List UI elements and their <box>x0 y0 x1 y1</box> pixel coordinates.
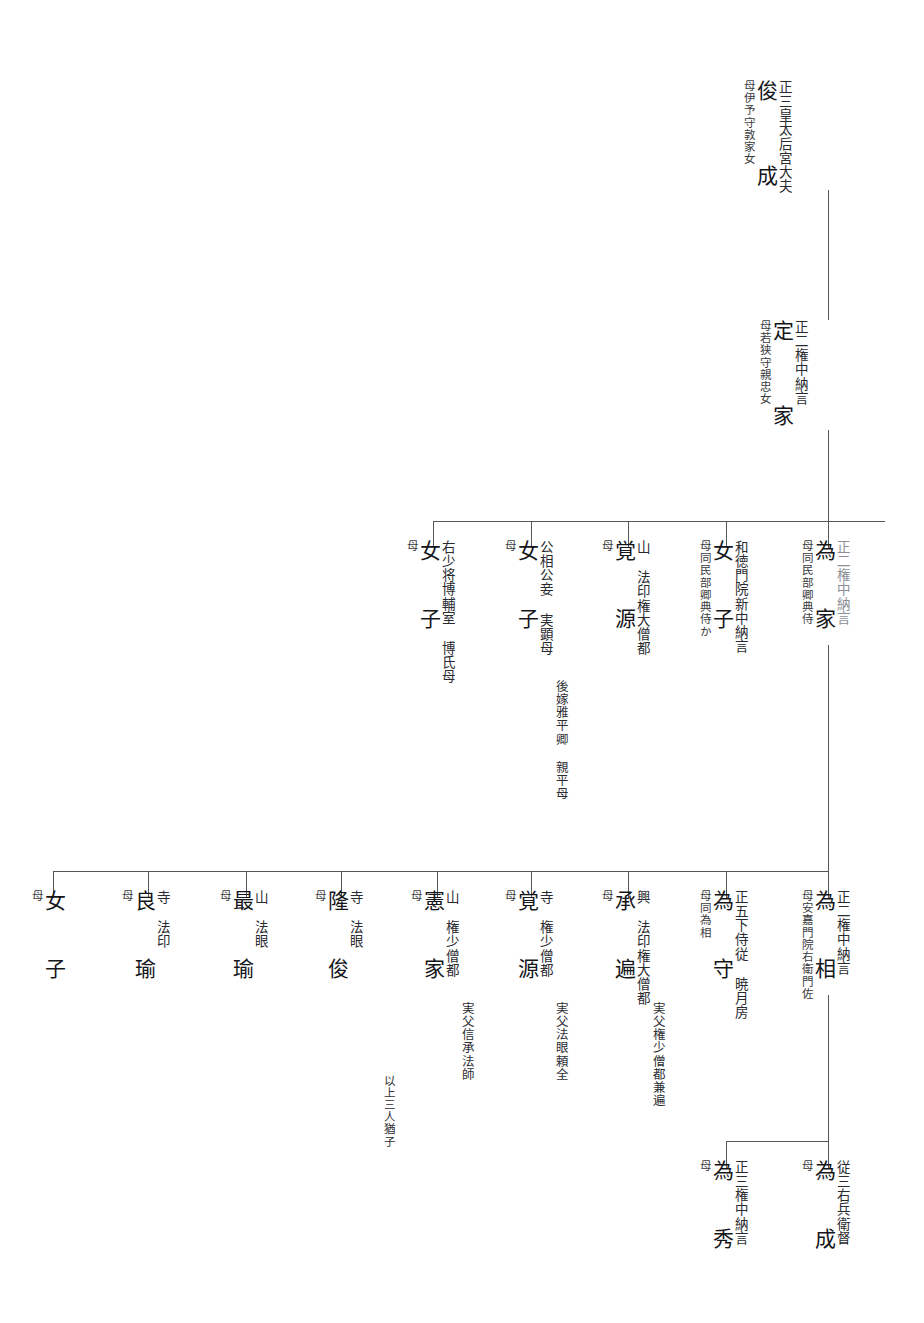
person-mother: 母 <box>801 1160 813 1172</box>
person-name: 覚 源 <box>516 890 538 991</box>
person-mother: 母 <box>410 890 422 902</box>
person-note: 実父法眼頼全 <box>555 1002 568 1081</box>
person-name: 為 秀 <box>711 1160 733 1261</box>
descent-line-tamesuke-children <box>828 995 829 1141</box>
person-mother: 母 <box>314 890 326 902</box>
person-rank: 正三皇太后宮大夫 <box>777 80 791 193</box>
person-note: 実父信承法師 <box>461 1002 474 1081</box>
person-mother: 母同為相 <box>699 890 711 939</box>
person-node-johen: 実父権少僧都兼遍 興 法印権大僧都 承 遍 母 <box>600 890 668 1107</box>
person-node-teika: 正二権中納言 定 家 母若狭守親忠女 <box>758 320 810 446</box>
person-mother: 母 <box>406 540 418 552</box>
person-name: 女 子 <box>516 540 538 641</box>
person-node-tamesuke: 正二権中納言 為 相 母安嘉門院右衛門佐 <box>800 890 852 1000</box>
person-name: 俊 成 <box>755 80 777 206</box>
person-rank: 寺 法印 <box>155 890 169 949</box>
person-name: 為 成 <box>813 1160 835 1261</box>
person-node-tamemori: 正五下侍従 暁月房 為 守 母同為相 <box>698 890 750 1019</box>
person-rank: 寺 法眼 <box>348 890 362 949</box>
person-rank: 正二権中納言 <box>793 320 807 405</box>
person-node-tamenari: 従三右兵衛督 為 成 母 <box>800 1160 852 1261</box>
person-node-kakugen-1: 山 法印権大僧都 覚 源 母 <box>600 540 652 655</box>
person-node-joshi-2: 後嫁雅平卿 親平母 公相公妾 実顕母 女 子 母 <box>503 540 572 800</box>
person-rank: 山 法印権大僧都 <box>635 540 649 655</box>
descent-line-teika-children <box>828 430 829 522</box>
person-node-tameie: 正二権中納言 為 家 母同民部卿典侍 <box>800 540 852 641</box>
person-rank: 公相公妾 実顕母 <box>538 540 552 655</box>
person-mother: 母 <box>31 890 43 902</box>
person-rank: 興 法印権大僧都 <box>635 890 649 1005</box>
person-mother: 母 <box>601 890 613 902</box>
person-node-kakugen-2: 実父法眼頼全 寺 権少僧都 覚 源 母 <box>503 890 571 1081</box>
person-rank: 正二権中納言 <box>835 540 849 625</box>
person-name: 女 子 <box>711 540 733 641</box>
person-note: 実父権少僧都兼遍 <box>652 1002 665 1107</box>
person-rank: 山 権少僧都 <box>444 890 458 977</box>
person-mother: 母若狭守親忠女 <box>759 320 771 406</box>
person-rank: 寺 権少僧都 <box>538 890 552 977</box>
group-note-text: 以上三人猶子 <box>383 1075 395 1148</box>
person-mother: 母安嘉門院右衛門佐 <box>801 890 813 1000</box>
person-node-shunzei: 正三皇太后宮大夫 俊 成 母伊予守敦家女 <box>742 80 794 206</box>
person-node-noriie: 実父信承法師 山 権少僧都 憲 家 母 <box>409 890 477 1081</box>
person-rank: 右少将博輔室 博氏母 <box>440 540 454 683</box>
person-name: 最 瑜 <box>231 890 253 991</box>
person-rank: 和徳門院新中納言 <box>733 540 747 653</box>
sibling-bar-gen3 <box>433 521 885 522</box>
person-name: 定 家 <box>771 320 793 446</box>
person-name: 憲 家 <box>422 890 444 991</box>
person-rank: 従三右兵衛督 <box>835 1160 849 1245</box>
person-mother: 母同民部卿典侍か <box>699 540 711 638</box>
person-name: 女 子 <box>418 540 440 641</box>
person-mother: 母 <box>504 890 516 902</box>
person-mother: 母同民部卿典侍 <box>801 540 813 626</box>
group-note-three-adopted: 以上三人猶子 <box>383 1075 395 1148</box>
person-note: 後嫁雅平卿 親平母 <box>555 680 568 800</box>
person-name: 承 遍 <box>613 890 635 991</box>
person-node-joshi-4: 女 子 母 <box>30 890 67 991</box>
person-node-ryushun: 寺 法眼 隆 俊 母 <box>313 890 365 991</box>
person-node-ryoyu: 寺 法印 良 瑜 母 <box>120 890 172 991</box>
person-node-joshi-3: 右少将博輔室 博氏母 女 子 母 <box>405 540 457 683</box>
person-mother: 母 <box>699 1160 711 1172</box>
descent-line-tameie-children <box>828 645 829 871</box>
person-mother: 母 <box>504 540 516 552</box>
person-node-joshi-1: 和徳門院新中納言 女 子 母同民部卿典侍か <box>698 540 750 653</box>
person-mother: 母 <box>601 540 613 552</box>
person-rank: 正三権中納言 <box>733 1160 747 1245</box>
person-name: 為 相 <box>813 890 835 991</box>
person-node-tamehide: 正三権中納言 為 秀 母 <box>698 1160 750 1261</box>
person-name: 女 子 <box>43 890 65 991</box>
genealogy-chart-page: 正三皇太后宮大夫 俊 成 母伊予守敦家女 正二権中納言 定 家 母若狭守親忠女 … <box>0 0 924 1323</box>
person-name: 為 守 <box>711 890 733 991</box>
person-mother: 母 <box>121 890 133 902</box>
person-name: 隆 俊 <box>326 890 348 991</box>
person-mother: 母 <box>219 890 231 902</box>
sibling-bar-gen5 <box>726 1141 829 1142</box>
person-rank: 山 法眼 <box>253 890 267 949</box>
descent-line-shunzei-teika <box>828 190 829 320</box>
person-name: 為 家 <box>813 540 835 641</box>
person-name: 覚 源 <box>613 540 635 641</box>
person-mother: 母伊予守敦家女 <box>743 80 755 166</box>
person-rank: 正二権中納言 <box>835 890 849 975</box>
person-node-saiyu: 山 法眼 最 瑜 母 <box>218 890 270 991</box>
person-name: 良 瑜 <box>133 890 155 991</box>
sibling-bar-gen4 <box>53 871 829 872</box>
person-rank: 正五下侍従 暁月房 <box>733 890 747 1019</box>
